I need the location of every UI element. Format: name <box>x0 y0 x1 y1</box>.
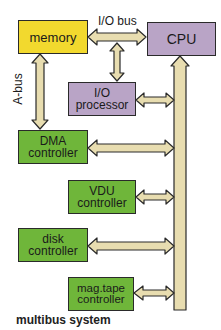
disk-label-2: controller <box>28 245 77 257</box>
magtape-controller-box: mag.tape controller <box>68 277 134 311</box>
magtape-bus-arrow <box>134 286 174 300</box>
multibus-bar <box>171 56 189 310</box>
dma-bus-arrow <box>88 140 174 156</box>
a-bus-arrow <box>32 54 48 129</box>
disk-controller-box: disk controller <box>18 228 88 262</box>
memory-label: memory <box>30 31 77 44</box>
vdu-controller-box: VDU controller <box>68 180 136 214</box>
io-processor-label-2: processor <box>76 99 129 111</box>
dma-label-2: controller <box>28 147 77 159</box>
a-bus-label: A-bus <box>11 69 25 109</box>
vdu-label-2: controller <box>77 197 126 209</box>
cpu-label: CPU <box>167 32 197 46</box>
vdu-bus-arrow <box>136 190 174 204</box>
disk-bus-arrow <box>88 238 174 254</box>
io-processor-bus-arrow <box>136 93 174 107</box>
io-bus-label: I/O bus <box>98 14 137 28</box>
magtape-label-2: controller <box>77 294 124 306</box>
cpu-box: CPU <box>147 22 216 56</box>
dma-controller-box: DMA controller <box>18 130 88 164</box>
diagram-caption: multibus system <box>16 313 111 327</box>
io-processor-box: I/O processor <box>68 82 136 116</box>
memory-box: memory <box>18 20 88 54</box>
io-bus-to-io-processor-arrow <box>110 43 124 81</box>
